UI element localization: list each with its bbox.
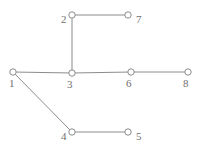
edge-1-4 [13,72,72,132]
graph-node-4 [69,129,75,135]
edge-3-6 [72,72,131,73]
graph-node-label-2: 2 [61,14,67,25]
graph-node-label-3: 3 [67,79,73,90]
graph-node-label-7: 7 [136,14,142,25]
graph-canvas [0,0,202,151]
graph-node-label-5: 5 [136,131,142,142]
graph-diagram: 12345678 [0,0,202,151]
edge-layer [13,15,188,132]
graph-node-label-1: 1 [9,78,15,89]
graph-node-2 [69,12,75,18]
graph-node-1 [10,69,16,75]
graph-node-label-6: 6 [126,78,132,89]
edge-1-3 [13,72,72,73]
graph-node-7 [125,12,131,18]
node-layer [10,12,191,135]
graph-node-8 [185,69,191,75]
graph-node-label-4: 4 [61,131,67,142]
graph-node-label-8: 8 [183,78,189,89]
graph-node-5 [125,129,131,135]
graph-node-3 [69,70,75,76]
graph-node-6 [128,69,134,75]
